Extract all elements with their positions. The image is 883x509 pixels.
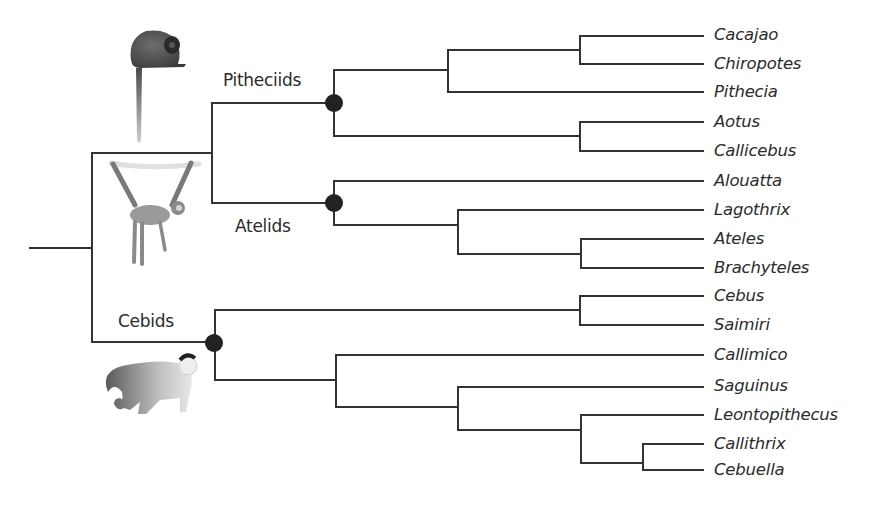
titi-monkey-icon bbox=[131, 30, 186, 143]
taxon-label: Pithecia bbox=[714, 82, 778, 102]
taxon-label: Saimiri bbox=[714, 315, 770, 335]
taxon-label: Cebus bbox=[714, 286, 764, 306]
clade-label-cebids: Cebids bbox=[118, 311, 174, 331]
taxon-label: Ateles bbox=[714, 229, 764, 249]
taxon-label: Chiropotes bbox=[714, 54, 801, 74]
taxon-label: Alouatta bbox=[714, 171, 782, 191]
taxon-label: Lagothrix bbox=[714, 200, 790, 220]
atelid-node-dot bbox=[325, 194, 343, 212]
phylogenetic-tree bbox=[0, 0, 883, 509]
cebid-node-dot bbox=[205, 334, 223, 352]
taxon-label: Leontopithecus bbox=[714, 405, 838, 425]
taxon-label: Cacajao bbox=[714, 25, 778, 45]
taxon-label: Callithrix bbox=[714, 434, 785, 454]
taxon-label: Saguinus bbox=[714, 376, 788, 396]
spider-monkey-icon bbox=[111, 163, 199, 264]
taxon-label: Callicebus bbox=[714, 141, 796, 161]
clade-label-atelids: Atelids bbox=[235, 216, 290, 236]
taxon-label: Cebuella bbox=[714, 460, 784, 480]
clade-label-pitheciids: Pitheciids bbox=[223, 70, 301, 90]
taxon-label: Brachyteles bbox=[714, 258, 809, 278]
pitheciid-node-dot bbox=[325, 94, 343, 112]
taxon-label: Aotus bbox=[714, 112, 760, 132]
taxon-label: Callimico bbox=[714, 345, 787, 365]
capuchin-monkey-icon bbox=[106, 355, 197, 414]
